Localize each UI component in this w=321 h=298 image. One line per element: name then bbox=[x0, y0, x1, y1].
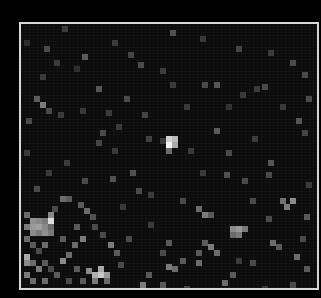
image-pixel-block bbox=[214, 250, 220, 256]
image-pixel-block bbox=[268, 50, 274, 56]
image-pixel-block bbox=[294, 254, 300, 260]
image-pixel-block bbox=[236, 46, 242, 52]
image-pixel-block bbox=[172, 266, 178, 272]
image-pixel-block bbox=[202, 240, 208, 246]
image-pixel-block bbox=[214, 128, 220, 134]
image-pixel-block bbox=[80, 108, 86, 114]
image-pixel-block bbox=[128, 52, 134, 58]
image-pixel-block bbox=[136, 188, 142, 194]
image-pixel-block bbox=[146, 272, 152, 278]
image-pixel-block bbox=[306, 96, 312, 102]
image-pixel-block bbox=[170, 82, 176, 88]
image-pixel-block bbox=[200, 36, 206, 42]
image-pixel-block bbox=[46, 108, 52, 114]
image-pixel-block bbox=[80, 236, 86, 242]
image-pixel-block bbox=[138, 62, 144, 68]
image-pixel-block bbox=[66, 196, 72, 202]
image-pixel-block bbox=[180, 258, 186, 264]
image-pixel-block bbox=[296, 118, 302, 124]
image-pixel-block bbox=[302, 130, 308, 136]
image-pixel-block bbox=[146, 136, 152, 142]
image-pixel-block bbox=[166, 240, 172, 246]
image-pixel-block bbox=[96, 86, 102, 92]
image-pixel-block bbox=[96, 140, 102, 146]
image-pixel-block bbox=[262, 286, 268, 290]
image-pixel-block bbox=[236, 232, 242, 238]
image-pixel-block bbox=[80, 278, 86, 284]
image-pixel-block bbox=[280, 104, 286, 110]
image-pixel-block bbox=[148, 222, 154, 228]
image-pixel-block bbox=[230, 272, 236, 278]
image-frame bbox=[19, 22, 319, 290]
image-pixel-block bbox=[98, 266, 104, 272]
image-pixel-block bbox=[214, 82, 220, 88]
image-pixel-block bbox=[250, 260, 256, 266]
image-pixel-block bbox=[170, 30, 176, 36]
image-pixel-block bbox=[306, 182, 312, 188]
image-pixel-block bbox=[58, 112, 64, 118]
image-pixel-block bbox=[42, 242, 48, 248]
image-pixel-block bbox=[266, 172, 272, 178]
image-pixel-block bbox=[266, 216, 272, 222]
image-pixel-block bbox=[262, 84, 268, 90]
image-pixel-block bbox=[36, 248, 42, 254]
image-pixel-block bbox=[64, 160, 70, 166]
image-pixel-block bbox=[290, 198, 296, 204]
image-pixel-block bbox=[40, 74, 46, 80]
image-pixel-block bbox=[242, 226, 248, 232]
image-pixel-block bbox=[290, 282, 296, 288]
image-pixel-block bbox=[302, 72, 308, 78]
image-pixel-block bbox=[208, 212, 214, 218]
image-pixel-block bbox=[160, 250, 166, 256]
image-pixel-block bbox=[268, 160, 274, 166]
image-pixel-block bbox=[54, 272, 60, 278]
image-pixel-block bbox=[252, 136, 258, 142]
image-pixel-block bbox=[66, 252, 72, 258]
image-pixel-block bbox=[60, 258, 66, 264]
image-pixel-block bbox=[196, 260, 202, 266]
image-pixel-block bbox=[24, 150, 30, 156]
image-pixel-block bbox=[100, 232, 106, 238]
image-pixel-block bbox=[224, 172, 230, 178]
image-pixel-block bbox=[184, 104, 190, 110]
image-pixel-block bbox=[112, 40, 118, 46]
image-pixel-block bbox=[46, 170, 52, 176]
image-pixel-block bbox=[300, 236, 306, 242]
image-pixel-block bbox=[42, 230, 48, 236]
image-pixel-block bbox=[200, 170, 206, 176]
image-pixel-block bbox=[284, 204, 290, 210]
image-pixel-block bbox=[112, 148, 118, 154]
image-pixel-block bbox=[180, 198, 186, 204]
image-pixel-block bbox=[142, 112, 148, 118]
image-pixel-block bbox=[42, 278, 48, 284]
image-pixel-block bbox=[82, 178, 88, 184]
image-pixel-block bbox=[242, 178, 248, 184]
image-pixel-block bbox=[24, 40, 30, 46]
image-pixel-block bbox=[120, 204, 126, 210]
image-pixel-block bbox=[226, 104, 232, 110]
image-pixel-block bbox=[72, 242, 78, 248]
image-pixel-block bbox=[290, 60, 296, 66]
image-pixel-block bbox=[108, 242, 114, 248]
image-pixel-block bbox=[240, 92, 246, 98]
image-pixel-block bbox=[124, 96, 130, 102]
image-pixel-block bbox=[62, 26, 68, 32]
image-pixel-block bbox=[148, 192, 154, 198]
image-pixel-block bbox=[26, 118, 32, 124]
image-pixel-block bbox=[74, 266, 80, 272]
image-pixel-block bbox=[304, 214, 310, 220]
image-pixel-block bbox=[160, 282, 166, 288]
image-pixel-block bbox=[90, 214, 96, 220]
image-pixel-block bbox=[126, 236, 132, 242]
image-pixel-block bbox=[116, 124, 122, 130]
image-pixel-block bbox=[304, 266, 310, 272]
image-pixel-block bbox=[54, 60, 60, 66]
image-pixel-block bbox=[74, 224, 80, 230]
image-pixel-block bbox=[30, 278, 36, 284]
image-pixel-block bbox=[106, 110, 112, 116]
image-pixel-block bbox=[92, 224, 98, 230]
image-pixel-block bbox=[114, 250, 120, 256]
image-pixel-block bbox=[104, 278, 110, 284]
image-pixel-block bbox=[36, 266, 42, 272]
image-pixel-block bbox=[140, 282, 146, 288]
